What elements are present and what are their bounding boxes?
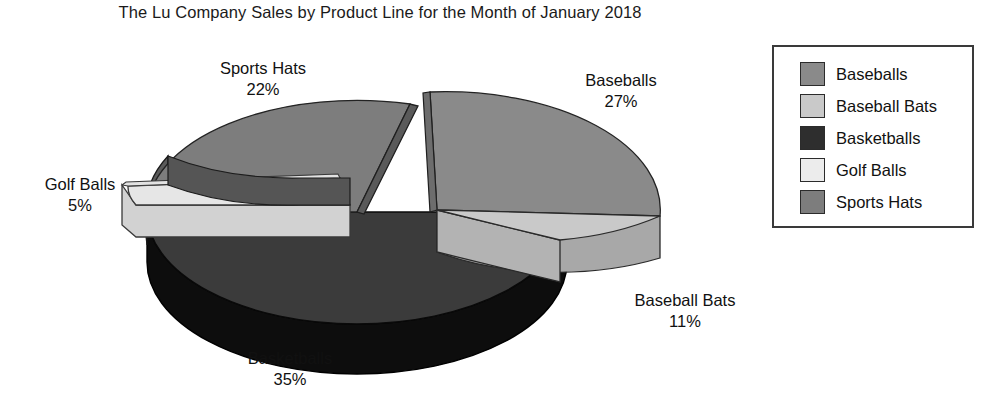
pie-chart-page: The Lu Company Sales by Product Line for… — [0, 0, 1000, 407]
slice-label-sports-hats-percent: 22% — [178, 79, 348, 100]
legend-item-sports-hats[interactable]: Sports Hats — [800, 186, 937, 218]
legend-label-baseball-bats: Baseball Bats — [836, 97, 937, 116]
slice-label-baseball-bats-name: Baseball Bats — [600, 290, 770, 311]
slice-label-baseball-bats: Baseball Bats 11% — [600, 290, 770, 331]
legend-item-golf-balls[interactable]: Golf Balls — [800, 154, 937, 186]
slice-label-sports-hats-name: Sports Hats — [178, 58, 348, 79]
legend-label-sports-hats: Sports Hats — [836, 193, 922, 212]
slice-label-baseball-bats-percent: 11% — [600, 311, 770, 332]
slice-label-sports-hats: Sports Hats 22% — [178, 58, 348, 99]
slice-label-golf-balls-name: Golf Balls — [15, 174, 145, 195]
slice-label-basketballs-name: Basketballs — [205, 348, 375, 369]
legend-swatch-sports-hats — [800, 190, 825, 214]
legend: Baseballs Baseball Bats Basketballs Golf… — [772, 45, 974, 228]
legend-item-baseball-bats[interactable]: Baseball Bats — [800, 90, 937, 122]
legend-label-golf-balls: Golf Balls — [836, 161, 907, 180]
legend-swatch-baseball-bats — [800, 94, 825, 118]
slice-label-basketballs: Basketballs 35% — [205, 348, 375, 389]
legend-label-basketballs: Basketballs — [836, 129, 920, 148]
legend-swatch-baseballs — [800, 62, 825, 86]
legend-swatch-golf-balls — [800, 158, 825, 182]
slice-label-golf-balls: Golf Balls 5% — [15, 174, 145, 215]
legend-item-baseballs[interactable]: Baseballs — [800, 58, 937, 90]
legend-list: Baseballs Baseball Bats Basketballs Golf… — [800, 58, 937, 218]
slice-label-baseballs-name: Baseballs — [536, 70, 706, 91]
legend-swatch-basketballs — [800, 126, 825, 150]
slice-label-basketballs-percent: 35% — [205, 369, 375, 390]
slice-label-baseballs: Baseballs 27% — [536, 70, 706, 111]
slice-label-baseballs-percent: 27% — [536, 91, 706, 112]
legend-item-basketballs[interactable]: Basketballs — [800, 122, 937, 154]
legend-label-baseballs: Baseballs — [836, 65, 908, 84]
slice-label-golf-balls-percent: 5% — [15, 195, 145, 216]
